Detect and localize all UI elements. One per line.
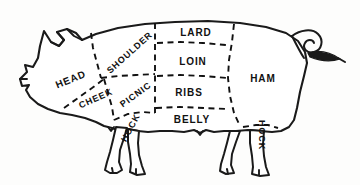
cut-label-belly: BELLY bbox=[174, 114, 210, 125]
pig-diagram-svg: HEAD CHEEK SHOULDER PICNIC HOCK LARD LOI… bbox=[0, 0, 360, 185]
cut-label-hock-rear: HOCK bbox=[257, 120, 267, 150]
pork-cuts-diagram: HEAD CHEEK SHOULDER PICNIC HOCK LARD LOI… bbox=[0, 0, 360, 185]
cut-label-lard: LARD bbox=[180, 27, 211, 38]
cut-label-loin: LOIN bbox=[179, 56, 207, 67]
tail-tuft bbox=[308, 52, 340, 61]
cut-label-ribs: RIBS bbox=[175, 87, 203, 98]
cut-label-ham: HAM bbox=[250, 73, 275, 84]
front-hoof-split-far bbox=[112, 168, 113, 173]
rear-hoof-split-far bbox=[227, 169, 228, 174]
rear-leg-far bbox=[220, 131, 240, 174]
tail-tip bbox=[338, 58, 345, 62]
